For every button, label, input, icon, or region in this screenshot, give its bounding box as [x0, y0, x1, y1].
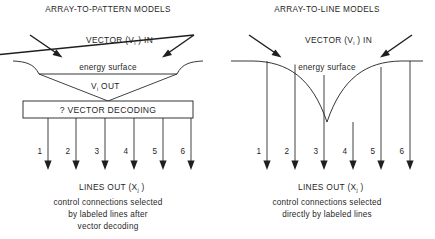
lines-out-tail-right: ): [358, 182, 364, 192]
line-number-right-3: 3: [313, 147, 318, 156]
energy-surface-right-edge: [177, 61, 203, 74]
energy-surface-left-edge: [13, 61, 39, 74]
output-line-left-4: [130, 118, 137, 170]
panel-title-array-to-line: ARRAY-TO-LINE MODELS: [274, 5, 380, 14]
line-number-right-2: 2: [284, 147, 289, 156]
output-line-right-4: [349, 122, 356, 170]
energy-surface-label-left: energy surface: [79, 63, 137, 72]
lines-out-label-right: LINES OUT (Xj ): [298, 182, 364, 193]
caption-line-left-1: control connections selected: [54, 198, 163, 207]
vector-in-label-right: VECTOR (Vi ) IN: [305, 35, 372, 46]
input-arrow-right-right: [380, 35, 412, 58]
energy-surface-label-right: energy surface: [298, 63, 356, 72]
input-arrow-left-upper: [30, 35, 63, 58]
output-line-right-6: [406, 61, 413, 170]
output-line-right-3: [320, 75, 327, 170]
lines-out-text-left: LINES OUT (X: [79, 182, 137, 192]
vector-in-tail-right: ) IN: [355, 35, 372, 45]
panel-array-to-pattern: ARRAY-TO-PATTERN MODELS VECTOR (Vi ) IN …: [0, 5, 203, 231]
input-arrow-right-upper: [249, 35, 282, 58]
lines-out-label-left: LINES OUT (Xj ): [79, 182, 145, 193]
line-number-right-4: 4: [342, 147, 347, 156]
line-number-left-4: 4: [123, 147, 128, 156]
panel-array-to-line: ARRAY-TO-LINE MODELS VECTOR (Vi ) IN ene…: [231, 5, 423, 219]
output-line-left-6: [187, 118, 194, 170]
line-number-right-5: 5: [370, 147, 375, 156]
line-number-left-5: 5: [152, 147, 157, 156]
panel-title-array-to-pattern: ARRAY-TO-PATTERN MODELS: [45, 5, 171, 14]
output-line-left-3: [101, 118, 108, 170]
caption-line-left-3: vector decoding: [78, 222, 139, 231]
vector-in-text-right: VECTOR (V: [305, 35, 353, 45]
output-line-left-1: [44, 118, 51, 170]
diagram-root: ARRAY-TO-PATTERN MODELS VECTOR (Vi ) IN …: [0, 0, 435, 239]
line-number-right-6: 6: [399, 147, 404, 156]
output-line-right-5: [377, 67, 384, 170]
caption-line-right-2: directly by labeled lines: [282, 210, 372, 219]
caption-line-right-1: control connections selected: [273, 198, 382, 207]
lines-out-text-right: LINES OUT (X: [298, 182, 356, 192]
line-number-right-1: 1: [256, 147, 261, 156]
line-number-left-1: 1: [37, 147, 42, 156]
output-line-right-1: [263, 61, 270, 170]
diagram-canvas: ARRAY-TO-PATTERN MODELS VECTOR (Vi ) IN …: [0, 0, 435, 239]
vector-decoding-box-label: ? VECTOR DECODING: [60, 105, 157, 115]
output-line-left-5: [159, 118, 166, 170]
caption-line-left-2: by labeled lines after: [68, 210, 148, 219]
line-number-left-2: 2: [65, 147, 70, 156]
lines-out-tail-left: ): [139, 182, 145, 192]
output-line-left-2: [72, 118, 79, 170]
vector-out-label-left: Vi OUT: [91, 81, 120, 92]
vector-out-tail-left: OUT: [98, 81, 119, 91]
line-number-left-3: 3: [94, 147, 99, 156]
output-line-right-2: [291, 65, 298, 171]
line-number-left-6: 6: [180, 147, 185, 156]
